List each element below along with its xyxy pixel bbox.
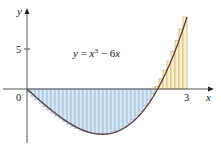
riemann-rectangle [111, 89, 115, 132]
equation-minus-six: − 6 [98, 47, 116, 59]
riemann-rectangle [79, 89, 83, 130]
riemann-rectangles [27, 17, 187, 134]
riemann-rectangle [59, 89, 63, 119]
y-axis-label: y [16, 5, 22, 17]
riemann-rectangle [91, 89, 95, 134]
riemann-rectangle [87, 89, 91, 133]
riemann-sum-chart: 503 x y y = x3 − 6x [0, 0, 221, 147]
x-axis-label: x [205, 91, 211, 103]
equation-equals: = [78, 47, 90, 59]
riemann-rectangle [83, 89, 87, 132]
y-tick-label: 5 [16, 44, 21, 55]
equation-x2: x [114, 47, 120, 59]
riemann-rectangle [103, 89, 107, 134]
riemann-rectangle [147, 89, 151, 100]
riemann-rectangle [143, 89, 147, 106]
riemann-rectangle [115, 89, 119, 131]
riemann-rectangle [99, 89, 103, 134]
riemann-rectangle [139, 89, 143, 111]
riemann-rectangle [55, 89, 59, 116]
x-tick-label: 0 [16, 92, 21, 103]
riemann-rectangle [71, 89, 75, 126]
riemann-rectangle [175, 41, 179, 89]
riemann-rectangle [135, 89, 139, 116]
riemann-rectangle [63, 89, 67, 122]
riemann-rectangle [127, 89, 131, 123]
riemann-rectangle [51, 89, 55, 113]
riemann-rectangle [119, 89, 123, 129]
riemann-rectangle [123, 89, 127, 126]
x-tick-label: 3 [184, 92, 189, 103]
y-axis-arrow-icon [25, 8, 30, 14]
equation-label: y = x3 − 6x [72, 47, 120, 59]
riemann-rectangle [75, 89, 79, 128]
riemann-rectangle [131, 89, 135, 120]
riemann-rectangle [151, 89, 155, 94]
riemann-rectangle [67, 89, 71, 124]
riemann-rectangle [95, 89, 99, 134]
riemann-rectangle [107, 89, 111, 133]
